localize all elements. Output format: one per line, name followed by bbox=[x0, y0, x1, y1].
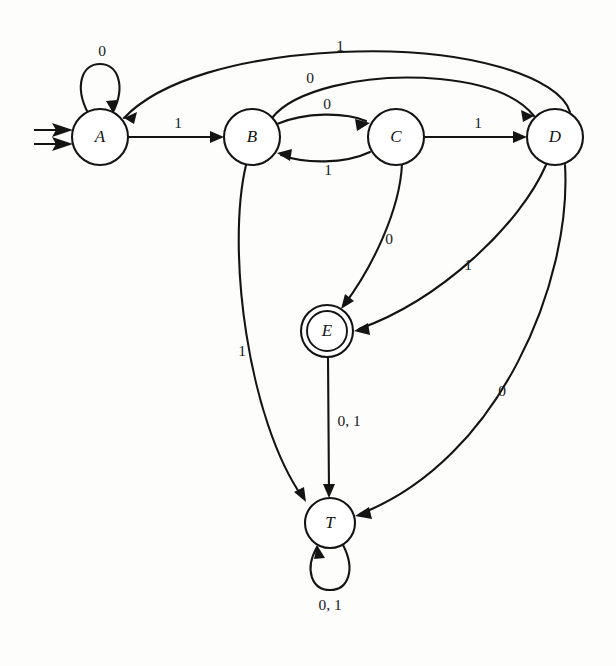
edge-C-to-D: 1 bbox=[424, 114, 527, 143]
edge-C-to-E-arrowhead bbox=[341, 294, 354, 309]
edge-T-to-T-selfloop: 0, 1 bbox=[311, 545, 350, 613]
edge-label-C-to-D: 1 bbox=[474, 114, 482, 131]
edge-E-to-T-arrowhead bbox=[323, 484, 335, 498]
edge-E-to-T-path bbox=[328, 357, 329, 493]
edge-B-to-T-path bbox=[239, 165, 303, 498]
state-node-B-label: B bbox=[247, 127, 258, 146]
edge-D-to-A: 1 bbox=[124, 37, 570, 124]
edge-C-to-D-arrowhead bbox=[513, 131, 527, 143]
edge-D-to-E: 1 bbox=[354, 165, 546, 335]
edge-A-to-B: 1 bbox=[128, 114, 224, 143]
edge-label-D-to-A: 1 bbox=[336, 37, 344, 54]
state-node-C-label: C bbox=[390, 127, 402, 146]
edge-C-to-E-path bbox=[344, 164, 402, 305]
edge-D-to-E-path bbox=[359, 165, 546, 329]
state-diagram-container: 1 0 0 1 0 1 bbox=[0, 0, 616, 666]
edge-B-to-T: 1 bbox=[238, 165, 306, 502]
edge-label-C-to-E: 0 bbox=[385, 230, 393, 247]
edge-label-C-to-B: 1 bbox=[324, 161, 332, 178]
edge-D-to-T-arrowhead bbox=[355, 507, 372, 519]
edge-label-B-to-T: 1 bbox=[238, 342, 246, 359]
edge-label-A-to-A: 0 bbox=[98, 42, 106, 59]
edge-label-B-to-D: 0 bbox=[306, 69, 314, 86]
edge-label-D-to-T: 0 bbox=[498, 382, 506, 399]
edge-B-to-C-path bbox=[277, 115, 366, 124]
state-node-E[interactable]: E bbox=[301, 305, 353, 357]
state-node-B[interactable]: B bbox=[224, 109, 280, 165]
state-node-D[interactable]: D bbox=[527, 109, 583, 165]
state-node-T-label: T bbox=[325, 513, 336, 532]
edge-B-to-C-arrowhead bbox=[355, 119, 370, 131]
edge-C-to-B: 1 bbox=[277, 149, 370, 178]
state-node-E-label: E bbox=[321, 321, 333, 340]
edge-A-to-B-arrowhead bbox=[210, 131, 224, 143]
state-node-T[interactable]: T bbox=[305, 498, 355, 548]
edge-B-to-T-arrowhead bbox=[294, 487, 306, 502]
edge-label-T-to-T: 0, 1 bbox=[318, 596, 341, 613]
state-node-A[interactable]: A bbox=[72, 109, 128, 165]
state-diagram-canvas: 1 0 0 1 0 1 bbox=[0, 0, 616, 666]
state-node-D-label: D bbox=[548, 127, 562, 146]
edge-label-E-to-T: 0, 1 bbox=[337, 412, 360, 429]
edge-D-to-E-arrowhead bbox=[354, 323, 370, 335]
state-node-A-label: A bbox=[94, 127, 106, 146]
edge-label-D-to-E: 1 bbox=[464, 256, 472, 273]
edge-D-to-T: 0 bbox=[355, 165, 565, 519]
edge-D-to-A-path bbox=[124, 51, 570, 118]
edge-label-A-to-B: 1 bbox=[174, 114, 182, 131]
state-node-C[interactable]: C bbox=[368, 109, 424, 165]
edge-C-to-E: 0 bbox=[341, 164, 402, 309]
edge-E-to-T: 0, 1 bbox=[323, 357, 361, 498]
edge-B-to-C: 0 bbox=[277, 95, 370, 131]
start-state-marker bbox=[34, 123, 73, 151]
edge-D-to-A-arrowhead bbox=[124, 112, 137, 124]
edge-C-to-B-arrowhead bbox=[277, 149, 292, 161]
edge-label-B-to-C: 0 bbox=[323, 95, 331, 112]
edge-A-to-A-selfloop: 0 bbox=[81, 42, 120, 113]
